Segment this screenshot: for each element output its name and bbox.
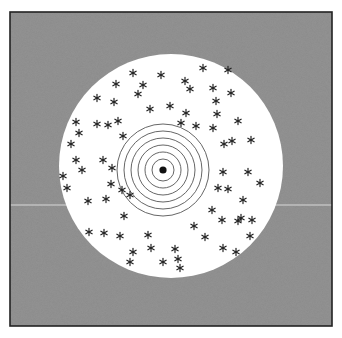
white-disc xyxy=(59,54,283,278)
center-dot xyxy=(159,166,166,173)
target-diagram xyxy=(0,0,342,338)
